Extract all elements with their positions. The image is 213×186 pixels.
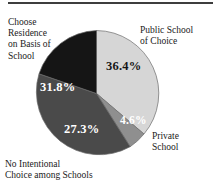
category-label-no-intentional-choice: No Intentional Choice among Schools	[5, 159, 93, 181]
category-label-public-school-of-choice: Public School of Choice	[140, 25, 193, 47]
top-divider-rule	[8, 2, 213, 4]
slice-value-no-intentional-choice: 27.3%	[64, 123, 99, 136]
pie-chart-figure: 36.4% 4.6% 27.3% 31.8% Choose Residence …	[0, 0, 213, 186]
category-label-choose-residence: Choose Residence on Basis of School	[8, 17, 51, 62]
category-label-private-school: Private School	[152, 131, 179, 153]
slice-value-private-school: 4.6%	[120, 115, 147, 127]
slice-value-choose-residence: 31.8%	[40, 81, 75, 94]
slice-value-public-school-of-choice: 36.4%	[106, 60, 141, 73]
